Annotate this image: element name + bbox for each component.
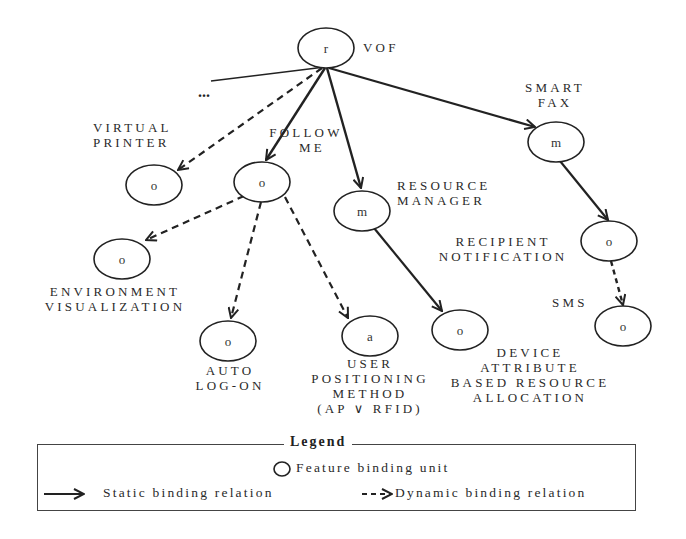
edge-recipient-sms — [611, 261, 623, 305]
node-auto-log-on: o — [200, 321, 256, 361]
label-device-attribute: DEVICE ATTRIBUTE BASED RESOURCE ALLOCATI… — [440, 345, 620, 405]
node-letter: o — [225, 334, 232, 349]
node-resource-manager: m — [334, 191, 390, 231]
label-environment-visualization: ENVIRONMENT VISUALIZATION — [30, 284, 200, 314]
edge-smart-fax-recipient — [560, 161, 608, 220]
label-resource-manager: RESOURCE MANAGER — [397, 178, 491, 208]
node-environment-visualization: o — [94, 239, 150, 279]
node-root: r — [298, 28, 354, 68]
legend-title: Legend — [284, 434, 352, 450]
legend-dynamic-label: Dynamic binding relation — [395, 485, 587, 501]
label-sms: SMS — [552, 295, 588, 310]
ellipsis: ... — [198, 83, 210, 100]
node-letter: a — [367, 329, 373, 344]
node-letter: m — [551, 135, 561, 150]
node-letter: m — [357, 204, 367, 219]
node-follow-me: o — [234, 162, 290, 202]
node-user-positioning-method: a — [342, 316, 398, 356]
edge-root-smart-fax — [329, 68, 535, 127]
node-letter: r — [324, 41, 329, 56]
node-virtual-printer: o — [126, 165, 182, 205]
label-smart-fax: SMART FAX — [510, 80, 600, 110]
edge-follow-me-auto-logon — [231, 202, 261, 318]
label-vof: VOF — [363, 40, 399, 55]
node-recipient-notification: o — [581, 221, 637, 261]
node-letter: o — [606, 234, 613, 249]
label-recipient-notification: RECIPIENT NOTIFICATION — [428, 234, 578, 264]
node-sms: o — [595, 306, 651, 346]
label-auto-log-on: AUTO LOG-ON — [190, 363, 270, 393]
node-smart-fax: m — [528, 122, 584, 162]
legend-feature-unit-label: Feature binding unit — [296, 460, 449, 476]
label-user-positioning-method: USER POSITIONING METHOD (AP ∨ RFID) — [300, 356, 440, 416]
node-letter: o — [620, 319, 627, 334]
node-letter: o — [119, 252, 126, 267]
node-letter: o — [151, 178, 158, 193]
label-follow-me: FOLLOW ME — [256, 125, 356, 155]
legend-static-label: Static binding relation — [103, 485, 274, 501]
node-letter: o — [457, 323, 464, 338]
label-virtual-printer: VIRTUAL PRINTER — [93, 120, 172, 150]
node-letter: o — [259, 175, 266, 190]
node-device-attribute: o — [432, 310, 488, 350]
